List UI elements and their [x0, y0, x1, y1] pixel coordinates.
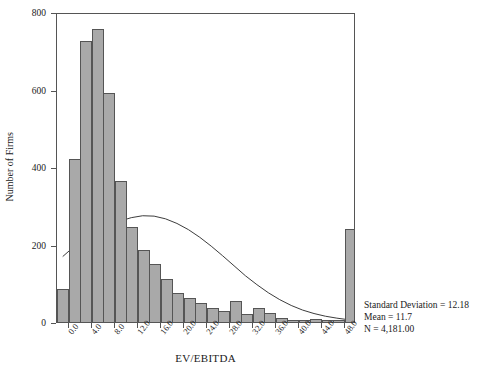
histogram-bar [345, 229, 355, 322]
histogram-bar [172, 293, 184, 322]
histogram-bar [126, 227, 138, 322]
plot-area [57, 14, 354, 322]
y-axis: Number of Firms 0200400600800 [0, 0, 56, 324]
y-tick-label: 800 [32, 8, 46, 18]
histogram-bar [264, 313, 276, 322]
histogram-bar [57, 289, 69, 322]
y-tick-label: 200 [32, 241, 46, 251]
histogram-bar [69, 159, 81, 322]
y-tick-label: 400 [32, 163, 46, 173]
chart-container: Number of Firms 0200400600800 EV/EBITDA … [0, 0, 487, 376]
histogram-bar [80, 41, 92, 322]
y-tick-label: 600 [32, 86, 46, 96]
histogram-bar [161, 279, 173, 322]
sample-size-text: N = 4,181.00 [364, 324, 469, 336]
histogram-bar [218, 311, 230, 322]
plot-frame [56, 13, 355, 323]
x-axis-title: EV/EBITDA [0, 352, 411, 364]
std-dev-text: Standard Deviation = 12.18 [364, 300, 469, 312]
statistics-annotation: Standard Deviation = 12.18 Mean = 11.7 N… [364, 300, 469, 335]
y-axis-title: Number of Firms [4, 132, 15, 201]
y-tick-mark [51, 323, 56, 324]
histogram-bar [241, 314, 253, 322]
histogram-bar [115, 181, 127, 322]
histogram-bar [138, 250, 150, 322]
histogram-bar [149, 264, 161, 322]
histogram-bar [103, 93, 115, 322]
histogram-bar [287, 320, 299, 322]
mean-text: Mean = 11.7 [364, 312, 469, 324]
histogram-bar [310, 319, 322, 322]
histogram-bar [333, 320, 345, 322]
histogram-bar [92, 29, 104, 322]
y-tick-label: 0 [41, 318, 46, 328]
histogram-bar [195, 303, 207, 322]
